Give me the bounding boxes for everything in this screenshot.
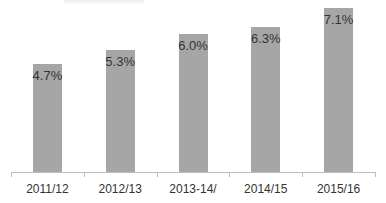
bar [251, 27, 280, 172]
x-axis-tick [302, 172, 303, 177]
x-axis-category-label: 2013-14/ [157, 182, 230, 196]
x-axis-line [11, 172, 375, 173]
x-axis-tick [229, 172, 230, 177]
data-label: 6.0% [171, 38, 215, 53]
x-axis-tick [84, 172, 85, 177]
data-label: 5.3% [98, 54, 142, 69]
data-label: 4.7% [25, 68, 69, 83]
data-label: 6.3% [244, 31, 288, 46]
bar [324, 8, 353, 172]
data-label: 7.1% [317, 12, 361, 27]
x-axis-tick [375, 172, 376, 177]
x-axis-category-label: 2012/13 [84, 182, 157, 196]
x-axis-tick [157, 172, 158, 177]
x-axis-category-label: 2015/16 [302, 182, 375, 196]
cropped-title-fragment [64, 0, 144, 4]
bar [179, 34, 208, 172]
x-axis-tick [11, 172, 12, 177]
x-axis-category-label: 2014/15 [229, 182, 302, 196]
x-axis-category-label: 2011/12 [11, 182, 84, 196]
